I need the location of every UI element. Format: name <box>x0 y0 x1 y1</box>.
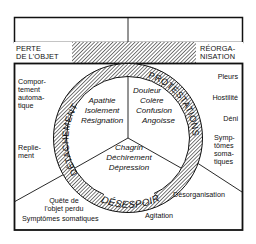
label-perte-objet: PERTE DE L'OBJET <box>16 45 59 61</box>
behavior-agitation: Agitation <box>145 212 173 220</box>
feeling-dechirement: Déchirement <box>98 153 160 163</box>
sector-desespoir-feelings: Chagrin Déchirement Dépression <box>98 143 160 173</box>
label-reorganisation: RÉORGA- NISATION <box>200 45 235 61</box>
behavior-line: ment <box>18 152 41 160</box>
feeling-angoisse: Angoisse <box>133 116 193 126</box>
feeling-douleur: Douleur <box>133 86 193 96</box>
feeling-colere: Colère <box>133 96 193 106</box>
feeling-resignation: Résignation <box>72 116 132 126</box>
feeling-chagrin: Chagrin <box>98 143 160 153</box>
behavior-quete-objet-perdu: Quête de l'objet perdu <box>34 197 94 213</box>
behavior-line: tiques <box>214 158 235 166</box>
label-perte-line2: DE L'OBJET <box>16 53 59 61</box>
sector-detachement-feelings: Apathie Isolement Résignation <box>72 96 132 126</box>
behavior-desorganisation: Désorganisation <box>173 191 225 199</box>
feeling-depression: Dépression <box>98 163 160 173</box>
label-reorg-line2: NISATION <box>200 53 235 61</box>
behavior-line: l'objet perdu <box>34 205 94 213</box>
behavior-symptomes-somatiques-left: Symptômes somatiques <box>22 215 99 223</box>
behavior-line: tique <box>18 102 46 110</box>
sector-protestations-feelings: Douleur Colère Confusion Angoisse <box>133 86 193 126</box>
behavior-pleurs: Pleurs <box>200 73 238 81</box>
feeling-confusion: Confusion <box>133 106 193 116</box>
feeling-apathie: Apathie <box>72 96 132 106</box>
behavior-deni: Déni <box>200 115 238 123</box>
behavior-comportement-automatique: Compor- tement automa- tique <box>18 78 46 110</box>
behavior-hostilite: Hostilité <box>200 94 238 102</box>
behavior-symptomes-somatiques-right: Symp- tômes soma- tiques <box>214 134 235 166</box>
behavior-repliement: Replie- ment <box>18 144 41 160</box>
feeling-isolement: Isolement <box>72 106 132 116</box>
